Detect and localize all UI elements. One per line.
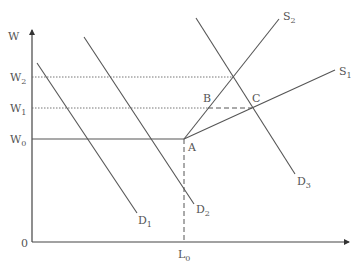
demand-curve-d2 [84,37,194,204]
demand-curve-d1 [37,63,137,213]
label-d1: D1 [138,214,152,229]
tick-label-w2: W2 [10,71,26,86]
labor-market-diagram: W W2 W1 W0 0 L0 S2 S1 D1 D2 D3 A B C [0,0,359,268]
point-label-b: B [203,92,211,105]
point-label-c: C [252,92,260,105]
label-s2: S2 [283,10,296,25]
tick-label-w0: W0 [10,133,26,148]
point-label-a: A [187,141,197,154]
supply-curve-s2 [184,19,279,139]
label-s1: S1 [339,65,352,80]
origin-label: 0 [21,237,28,250]
label-d3: D3 [297,175,311,190]
tick-label-l0: L0 [178,248,190,263]
y-axis-label: W [8,30,20,43]
label-d2: D2 [196,203,210,218]
tick-label-w1: W1 [10,102,26,117]
